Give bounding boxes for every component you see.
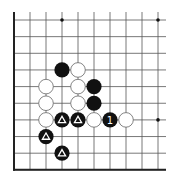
black-stone-icon xyxy=(86,96,101,111)
white-stone-icon xyxy=(71,96,86,111)
star-point-icon xyxy=(156,18,160,22)
black-stone xyxy=(38,129,53,144)
star-point-icon xyxy=(60,18,64,22)
white-stone xyxy=(119,113,134,128)
black-stone xyxy=(54,146,69,161)
move-number-label: 1 xyxy=(107,115,113,126)
stones: 1 xyxy=(38,62,133,160)
white-stone xyxy=(71,96,86,111)
white-stone xyxy=(39,79,54,94)
white-stone-icon xyxy=(39,96,54,111)
white-stone-icon xyxy=(39,113,54,128)
black-stone: 1 xyxy=(102,112,117,127)
white-stone xyxy=(71,79,86,94)
black-stone xyxy=(54,112,69,127)
black-stone-icon xyxy=(54,62,69,77)
black-stone-icon xyxy=(38,129,53,144)
white-stone-icon xyxy=(119,113,134,128)
white-stone-icon xyxy=(71,63,86,78)
black-stone-icon xyxy=(54,146,69,161)
black-stone xyxy=(70,112,85,127)
white-stone-icon xyxy=(71,79,86,94)
white-stone xyxy=(39,96,54,111)
star-point-icon xyxy=(156,118,160,122)
white-stone xyxy=(39,113,54,128)
go-board: 1 xyxy=(0,0,176,178)
black-stone-icon xyxy=(70,112,85,127)
white-stone-icon xyxy=(87,113,102,128)
black-stone xyxy=(86,96,101,111)
white-stone-icon xyxy=(39,79,54,94)
black-stone xyxy=(86,79,101,94)
black-stone xyxy=(54,62,69,77)
white-stone xyxy=(87,113,102,128)
black-stone-icon xyxy=(86,79,101,94)
black-stone-icon xyxy=(54,112,69,127)
white-stone xyxy=(71,63,86,78)
